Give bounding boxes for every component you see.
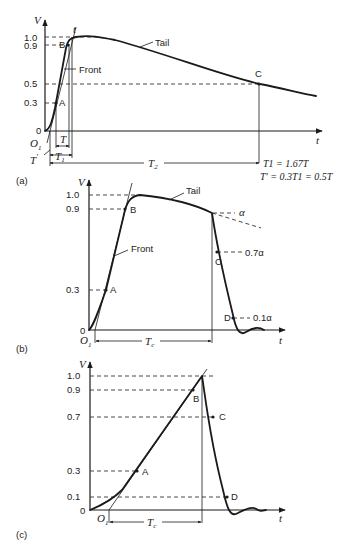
- panel-a: V t 1.0 0.9 0.5 0.3 0 A B C t Front: [16, 14, 334, 186]
- caption-b: (b): [16, 343, 28, 354]
- caption-a: (a): [16, 175, 28, 186]
- formula-t1: T1 = 1.67T: [263, 158, 310, 169]
- origin-label: O1: [30, 137, 41, 152]
- impulse-voltage-diagram: V t 1.0 0.9 0.5 0.3 0 A B C t Front: [0, 0, 343, 554]
- point-label-a: A: [142, 466, 149, 477]
- tail-leader: [140, 42, 153, 47]
- axis-label-v: V: [79, 358, 87, 370]
- point-label-a: A: [59, 97, 66, 108]
- tick-label: 0.5: [24, 78, 37, 89]
- origin-label: O1: [97, 512, 108, 527]
- point-d: [225, 495, 228, 498]
- point-label-c: C: [219, 411, 226, 422]
- tick-label: 0.7: [67, 411, 80, 422]
- tick-label: 0.3: [66, 284, 79, 295]
- tick-label: 0.9: [67, 384, 80, 395]
- point-a: [104, 288, 107, 291]
- tail-leader: [169, 193, 184, 200]
- point-b: [123, 207, 126, 210]
- point-label-c: C: [255, 68, 262, 79]
- point-c: [215, 250, 218, 253]
- panel-c: V t 1.0 0.9 0.7 0.3 0.1 0 A B C D O1 Tc: [16, 358, 285, 540]
- peak-label-t: t: [73, 23, 77, 35]
- point-label-d: D: [224, 312, 231, 323]
- point-d: [231, 316, 234, 319]
- axis-label-t: t: [279, 334, 283, 346]
- waveform-curve: [89, 195, 264, 333]
- waveform-curve: [90, 376, 266, 514]
- tick-label: 0.3: [24, 97, 37, 108]
- point-a: [135, 469, 138, 472]
- point-label-a: A: [110, 284, 117, 295]
- interval-label-t: T: [60, 133, 67, 145]
- point-label-b: B: [130, 204, 136, 215]
- label-0.7alpha: 0.7α: [245, 247, 264, 258]
- tick-label: 1.0: [67, 370, 80, 381]
- point-c: [257, 82, 260, 85]
- tick-label: 0.1: [67, 491, 80, 502]
- tick-label: 1.0: [66, 189, 79, 200]
- label-front: Front: [79, 64, 102, 75]
- point-label-d: D: [231, 491, 238, 502]
- point-label-c: C: [215, 256, 222, 267]
- tprime-leader: [44, 150, 50, 155]
- label-0.1alpha: 0.1α: [253, 312, 272, 323]
- axis-label-t: t: [316, 134, 320, 146]
- axis-label-v: V: [78, 176, 86, 188]
- interval-label-tprime: T′: [30, 153, 38, 166]
- tick-label: 0.9: [66, 203, 79, 214]
- interval-label-t1: T1: [55, 150, 65, 164]
- tick-label: 0: [36, 125, 41, 136]
- label-tail: Tail: [186, 185, 200, 196]
- tick-label: 0: [80, 505, 85, 516]
- point-label-b: B: [193, 393, 199, 404]
- axis-label-v: V: [34, 14, 42, 26]
- tick-label: 0.3: [67, 465, 80, 476]
- point-c: [211, 415, 214, 418]
- point-a: [54, 101, 57, 104]
- axis-label-t: t: [279, 512, 283, 524]
- origin-label: O1: [80, 334, 91, 349]
- point-label-b: B: [59, 39, 65, 50]
- tick-label: 0.9: [24, 40, 37, 51]
- label-front: Front: [131, 243, 154, 254]
- point-b: [191, 388, 194, 391]
- tail-extension: [212, 213, 261, 228]
- point-b: [66, 43, 69, 46]
- label-tail: Tail: [155, 37, 169, 48]
- panel-b: V t 1.0 0.9 0.3 0 α 0.7α 0.1α A B C D: [16, 176, 285, 354]
- label-alpha: α: [239, 206, 245, 218]
- caption-c: (c): [16, 529, 27, 540]
- formula-tprime: T′ = 0.3T1 = 0.5T: [260, 171, 334, 182]
